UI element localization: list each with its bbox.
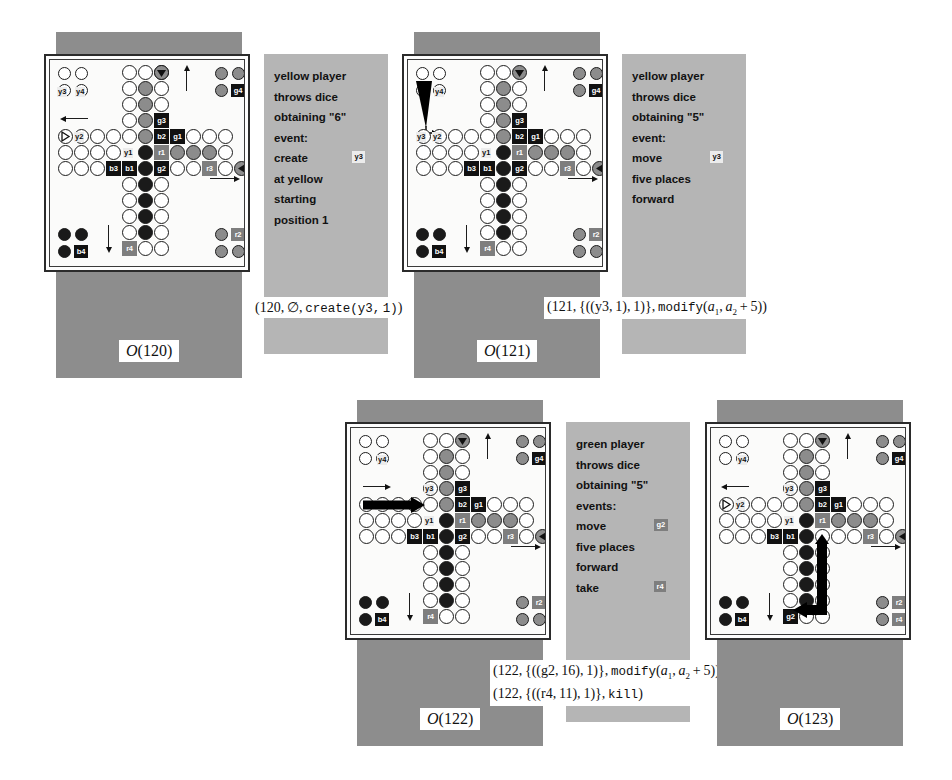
cell-lc-4 (439, 577, 454, 592)
token-r4: r4 (122, 241, 137, 256)
cell-lb-4 (122, 209, 137, 224)
panel-121-description-lines: yellow player throws dice obtaining "5" … (632, 66, 704, 210)
token-r3: r3 (503, 529, 518, 544)
desc-line: event: (274, 128, 346, 149)
cell-vb-2 (799, 449, 814, 464)
panel-122-description-lines: green player throws dice obtaining "5" e… (576, 434, 648, 598)
cell-lb-3 (423, 561, 438, 576)
cell-lrow2-3 (391, 513, 406, 528)
red-entry-arrow-icon (537, 531, 546, 542)
token-r2: r2 (892, 596, 906, 609)
token-b4: b4 (735, 613, 749, 626)
token-b1: b1 (480, 161, 495, 176)
cell-green-home-3 (516, 452, 529, 465)
cell-rrow3-1 (831, 529, 846, 544)
cell-rrow1-4 (218, 129, 233, 144)
token-g1: g1 (471, 497, 486, 512)
cell-lrow2-3 (751, 513, 766, 528)
panel-120-board: y3 y4 g4 b4 r2 (44, 54, 250, 272)
cell-ld-4 (455, 593, 470, 608)
token-b3: b3 (767, 529, 782, 544)
cell-lrow2-3 (448, 145, 463, 160)
cell-lb-2 (423, 545, 438, 560)
token-b1: b1 (783, 529, 798, 544)
cell-lrow3-2 (735, 529, 750, 544)
caption-arg: (121) (496, 342, 531, 359)
dir-arrow-down-head-icon (766, 614, 774, 621)
cell-lb-3 (122, 193, 137, 208)
desc-line: obtaining "5" (632, 107, 704, 128)
shared-formula-line-1: (122, {((g2, 16), 1)}, modify(a1, a2 + 5… (493, 662, 720, 685)
cell-lrow2-1 (719, 513, 734, 528)
cell-red-home-3 (573, 245, 586, 258)
cell-lb-4 (423, 577, 438, 592)
cell-vb-5 (439, 497, 454, 512)
dir-arrow-up-head-icon (183, 65, 191, 72)
cell-red-home-3 (215, 245, 228, 258)
cell-vb-5 (138, 129, 153, 144)
top-entry-arrow-icon (817, 435, 828, 446)
cell-green-home-2 (232, 67, 245, 80)
token-b2: b2 (154, 129, 169, 144)
desc-token-tag: r4 (654, 581, 666, 593)
cell-lrow2-4 (464, 145, 479, 160)
red-entry-arrow-icon (897, 531, 906, 542)
cell-yellow-home-1 (359, 435, 372, 448)
cell-rrow3-4 (576, 161, 591, 176)
shared-formula-line-2: (122, {((r4, 11), 1)}, kill) (493, 685, 720, 704)
create-move-arrow-icon (414, 80, 438, 136)
desc-line-with-tag: move y3 (632, 148, 704, 169)
cell-rrow2-3 (560, 145, 575, 160)
dir-arrow-up-head-icon (541, 65, 549, 72)
cell-lb-5 (480, 225, 495, 240)
cell-va-2 (122, 81, 137, 96)
token-y1: y1 (784, 516, 794, 526)
red-entry-arrow-icon (236, 163, 245, 174)
cell-lb-3 (480, 193, 495, 208)
cell-va-1 (480, 65, 495, 80)
token-y4: y4 (75, 87, 85, 97)
cell-yellow-home-2 (75, 67, 88, 80)
cell-red-home-3 (876, 613, 889, 626)
cell-rrow2-3 (863, 513, 878, 528)
dir-arrow-up-head-icon (844, 433, 852, 440)
cell-lrow2-3 (90, 145, 105, 160)
token-r3: r3 (560, 161, 575, 176)
cell-va-1 (783, 433, 798, 448)
desc-line: yellow player (274, 66, 346, 87)
panel-123-caption: O(123) (780, 708, 840, 730)
caption-arg: (123) (799, 710, 834, 727)
cell-ld-3 (154, 209, 169, 224)
token-y1: y1 (123, 148, 133, 158)
cell-lrow2-2 (74, 145, 89, 160)
desc-line: obtaining "6" (274, 107, 346, 128)
token-y3: y3 (784, 484, 794, 494)
cell-rrow1-2 (847, 497, 862, 512)
cell-blue-home-1 (719, 596, 732, 609)
cell-green-home-2 (893, 435, 906, 448)
cell-lb-2 (480, 177, 495, 192)
panel-121-caption: O(121) (477, 340, 537, 362)
cell-lrow1-4 (106, 129, 121, 144)
desc-token-tag: y3 (710, 151, 723, 163)
token-r4: r4 (480, 241, 495, 256)
cell-va-2 (423, 449, 438, 464)
desc-line: five places (632, 169, 704, 190)
cell-va-3 (783, 465, 798, 480)
cell-blue-home-3 (359, 613, 372, 626)
token-y4: y4 (737, 455, 747, 465)
cell-green-home-1 (573, 67, 586, 80)
cell-green-home-3 (573, 84, 586, 97)
dir-arrow-left-head-icon (721, 483, 728, 491)
cell-va-1 (423, 433, 438, 448)
cell-rrow3-1 (170, 161, 185, 176)
caption-arg: (122) (439, 710, 474, 727)
token-r3: r3 (863, 529, 878, 544)
cell-green-home-2 (590, 67, 603, 80)
caption-prefix: O (484, 342, 496, 359)
cell-lc-3 (496, 193, 511, 208)
cell-lrow2-1 (359, 513, 374, 528)
token-y3: y3 (416, 132, 426, 142)
token-g4: g4 (589, 84, 603, 97)
cell-yellow-home-1 (719, 435, 732, 448)
